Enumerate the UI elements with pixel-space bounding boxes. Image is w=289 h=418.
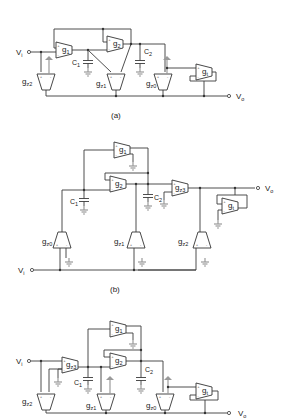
- svg-text:C1: C1: [72, 59, 80, 68]
- ota-gz1: [127, 232, 145, 248]
- svg-text:gz0: gz0: [146, 79, 156, 89]
- svg-text:gz2: gz2: [22, 397, 32, 407]
- vi-label: Vi: [16, 357, 23, 367]
- panel-c: g1 Vi gz3 C1 g2 C2: [16, 321, 246, 418]
- input-terminal: [27, 359, 30, 362]
- svg-text:C1: C1: [70, 198, 78, 207]
- input-terminal: [30, 268, 33, 271]
- svg-text:gz2: gz2: [22, 77, 32, 87]
- capacitor-c1: [79, 194, 89, 206]
- vo-label: Vo: [265, 184, 273, 194]
- capacitor-c2: [135, 56, 145, 68]
- output-terminal: [227, 411, 230, 414]
- caption-b: (b): [110, 285, 120, 294]
- capacitor-c1: [83, 56, 93, 68]
- ota-gz2: [37, 394, 55, 410]
- input-terminal: [27, 50, 30, 53]
- ota-gz0: [156, 394, 174, 410]
- ota-gz1: [97, 394, 115, 410]
- svg-text:gz1: gz1: [96, 79, 106, 89]
- caption-a: (a): [111, 111, 121, 120]
- ota-gz2: [193, 232, 211, 248]
- svg-text:gz1: gz1: [86, 401, 96, 411]
- ota-gz0: [53, 232, 71, 248]
- ota-gz2: [37, 74, 55, 90]
- vi-label: Vi: [16, 48, 23, 58]
- ota-c-filter-diagram: + - + - + -: [0, 0, 289, 418]
- output-terminal: [256, 186, 259, 189]
- panel-b: g1 g2 C1 C2 gz3 Vo: [18, 142, 273, 294]
- svg-text:C1: C1: [74, 379, 82, 388]
- vo-label: Vo: [238, 409, 246, 418]
- svg-text:gz0: gz0: [42, 237, 52, 247]
- svg-text:C2: C2: [154, 194, 162, 203]
- capacitor-c2: [143, 190, 153, 202]
- svg-text:gz1: gz1: [114, 237, 124, 247]
- panel-a: Vi g1 C1 g2 C2 gz2: [16, 28, 244, 120]
- svg-text:C2: C2: [145, 366, 153, 375]
- vi-label: Vi: [18, 266, 25, 276]
- ota-gz1: [107, 74, 125, 90]
- svg-text:gz0: gz0: [146, 401, 156, 411]
- vo-label: Vo: [236, 92, 244, 102]
- svg-text:gz2: gz2: [178, 237, 188, 247]
- ota-gz0: [154, 74, 172, 90]
- svg-text:C2: C2: [144, 48, 152, 57]
- capacitor-c1: [83, 373, 93, 385]
- capacitor-c2: [136, 373, 146, 385]
- output-terminal: [227, 94, 230, 97]
